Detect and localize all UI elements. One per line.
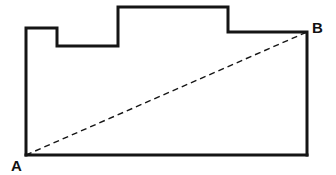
figure-background xyxy=(0,0,336,175)
figure-canvas: A B xyxy=(0,0,336,175)
vertex-label-a: A xyxy=(11,157,22,174)
vertex-label-b: B xyxy=(312,19,323,36)
geometry-figure: A B xyxy=(0,0,336,175)
